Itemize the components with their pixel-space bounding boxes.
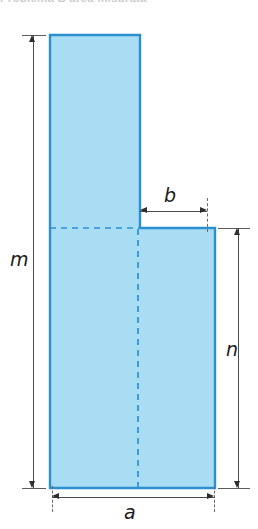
dimension-b-arrow-left: [140, 207, 147, 213]
dimension-m-line: [33, 35, 34, 488]
dimension-a-arrow-left: [52, 493, 59, 499]
dimension-a-line: [52, 497, 214, 498]
dimension-n-tick-bottom: [218, 488, 250, 489]
dimension-m-label: m: [10, 250, 29, 269]
polygon-outline: [50, 35, 215, 488]
dimension-b-label: b: [164, 186, 176, 205]
dimension-b-line: [140, 211, 207, 212]
step-polygon: [0, 0, 258, 529]
dimension-a-label: a: [124, 503, 136, 522]
geometry-figure: Problema B area misurata m b n: [0, 0, 258, 529]
dimension-a-tick-right: [214, 486, 215, 512]
dimension-m-arrow-top: [29, 35, 35, 42]
dimension-b-arrow-right: [200, 207, 207, 213]
dimension-a-arrow-right: [207, 493, 214, 499]
dimension-m-arrow-bottom: [29, 481, 35, 488]
dimension-n-arrow-top: [234, 228, 240, 235]
dimension-n-arrow-bottom: [234, 481, 240, 488]
dimension-n-label: n: [226, 340, 238, 359]
dimension-b-tick-right: [207, 198, 208, 232]
dimension-n-line: [238, 228, 239, 488]
figure-caption: Problema B area misurata: [0, 0, 258, 5]
dimension-m-tick-bottom: [22, 488, 46, 489]
